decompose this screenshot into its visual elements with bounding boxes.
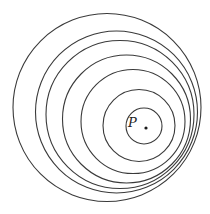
circle-3 bbox=[46, 41, 194, 189]
circle-6 bbox=[103, 90, 175, 162]
nested-circles-diagram: P bbox=[0, 0, 210, 214]
circles-group bbox=[13, 14, 201, 202]
point-p-label: P bbox=[127, 115, 137, 130]
point-p-dot bbox=[144, 126, 147, 129]
circle-4 bbox=[63, 55, 191, 183]
